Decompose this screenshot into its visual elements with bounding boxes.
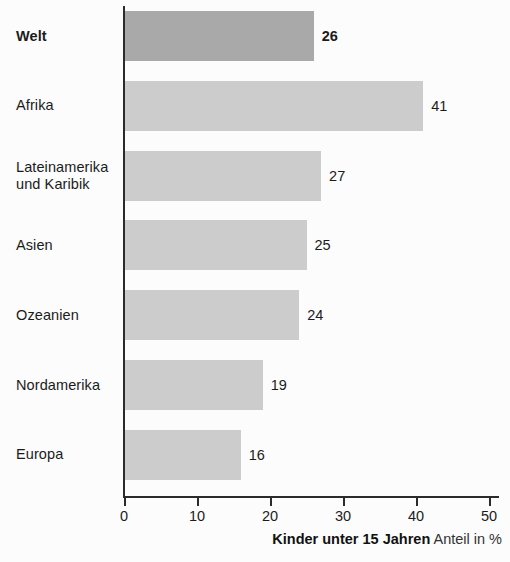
x-axis-tick-label: 40 — [408, 508, 424, 524]
x-axis-tick-label: 0 — [120, 508, 128, 524]
category-label: Welt — [16, 28, 124, 45]
category-label-line: Asien — [16, 237, 124, 254]
bar-value-label: 25 — [315, 238, 331, 253]
category-label-line: Europa — [16, 446, 124, 463]
bar — [124, 220, 307, 270]
x-axis-tick — [416, 498, 418, 506]
bar-value-label: 24 — [307, 308, 323, 323]
bar — [124, 151, 321, 201]
category-label-line: und Karibik — [16, 176, 124, 193]
axis-caption: Kinder unter 15 Jahren Anteil in % — [272, 531, 502, 548]
bar — [124, 430, 241, 480]
axis-caption-strong: Kinder unter 15 Jahren — [272, 531, 430, 547]
x-axis-tick — [197, 498, 199, 506]
bar-value-label: 27 — [329, 169, 345, 184]
x-axis-tick-label: 10 — [189, 508, 205, 524]
bar — [124, 290, 299, 340]
bar — [124, 360, 263, 410]
bar-chart: WeltAfrikaLateinamerikaund KaribikAsienO… — [0, 0, 510, 562]
category-label: Nordamerika — [16, 377, 124, 394]
bar — [124, 11, 314, 61]
category-label: Asien — [16, 237, 124, 254]
x-axis-line — [124, 496, 499, 498]
axis-caption-unit: Anteil in % — [433, 531, 502, 547]
category-label-line: Welt — [16, 28, 124, 45]
bar-value-label: 41 — [431, 99, 447, 114]
category-label: Europa — [16, 446, 124, 463]
bar-value-label: 26 — [322, 29, 338, 44]
x-axis-tick — [343, 498, 345, 506]
x-axis-tick — [270, 498, 272, 506]
x-axis-tick-label: 20 — [262, 508, 278, 524]
category-label: Lateinamerikaund Karibik — [16, 159, 124, 193]
bar-value-label: 16 — [249, 448, 265, 463]
category-label-line: Ozeanien — [16, 307, 124, 324]
x-axis-tick — [489, 498, 491, 506]
x-axis-tick — [124, 498, 126, 506]
x-axis-tick-label: 30 — [335, 508, 351, 524]
category-label-line: Nordamerika — [16, 377, 124, 394]
bar-value-label: 19 — [271, 378, 287, 393]
category-label-line: Afrika — [16, 97, 124, 114]
y-axis-line — [123, 6, 125, 498]
category-label: Afrika — [16, 97, 124, 114]
plot-area: 26412725241916 — [124, 0, 510, 497]
bar — [124, 81, 423, 131]
category-label-column: WeltAfrikaLateinamerikaund KaribikAsienO… — [0, 0, 124, 497]
category-label-line: Lateinamerika — [16, 159, 124, 176]
category-label: Ozeanien — [16, 307, 124, 324]
x-axis-tick-label: 50 — [481, 508, 497, 524]
